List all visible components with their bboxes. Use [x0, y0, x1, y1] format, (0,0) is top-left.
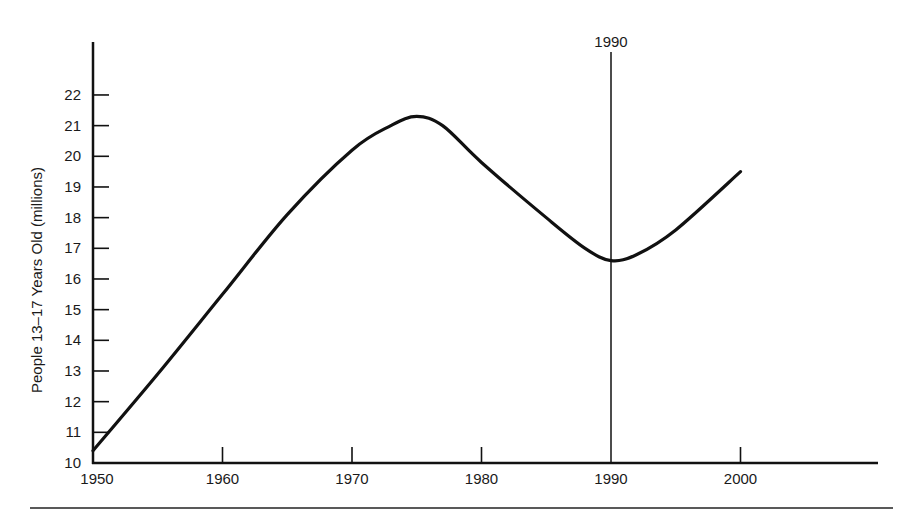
x-tick-label: 1990: [594, 470, 627, 487]
line-chart: 10111213141516171819202122 1950196019701…: [0, 0, 904, 515]
y-tick-label: 22: [64, 86, 81, 103]
y-tick-label: 11: [65, 423, 81, 440]
y-tick-label: 20: [64, 147, 81, 164]
x-ticks: 195019601970198019902000: [80, 447, 757, 487]
y-tick-label: 13: [64, 362, 81, 379]
y-tick-label: 15: [64, 301, 81, 318]
x-tick-label: 1980: [465, 470, 498, 487]
x-tick-label: 1960: [206, 470, 239, 487]
y-tick-label: 12: [64, 393, 81, 410]
x-tick-label: 1970: [335, 470, 368, 487]
x-tick-label: 1950: [80, 470, 113, 487]
data-series-line: [93, 116, 741, 450]
y-tick-label: 14: [64, 331, 81, 348]
annotation-label: 1990: [594, 33, 627, 50]
x-tick-label: 2000: [724, 470, 757, 487]
y-tick-label: 21: [64, 117, 81, 134]
y-tick-label: 19: [64, 178, 81, 195]
y-tick-label: 10: [64, 454, 81, 471]
y-tick-label: 18: [64, 209, 81, 226]
y-tick-label: 16: [64, 270, 81, 287]
y-ticks: 10111213141516171819202122: [64, 86, 109, 471]
y-axis-title: People 13–17 Years Old (millions): [28, 167, 45, 393]
y-tick-label: 17: [64, 239, 81, 256]
